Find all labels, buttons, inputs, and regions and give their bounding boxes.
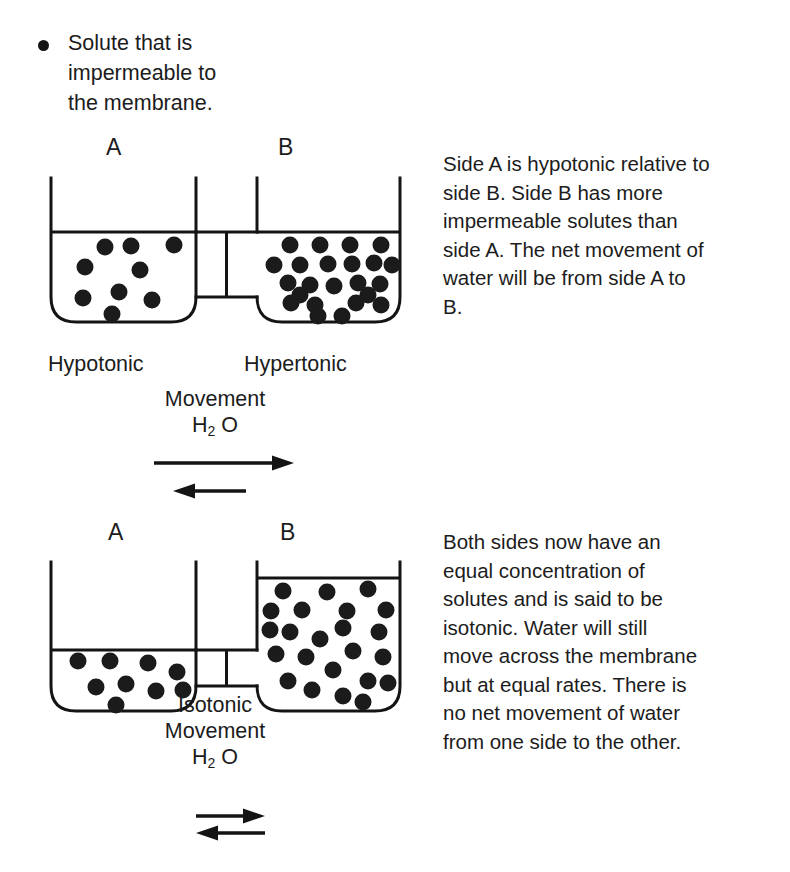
flow-arrow-forward-2: [196, 809, 265, 824]
flow-arrow-reverse-2: [196, 826, 265, 841]
explanation-note-2: Both sides now have an equal concentrati…: [443, 528, 775, 756]
osmosis-diagram-page: Solute that is impermeable to the membra…: [0, 0, 790, 872]
